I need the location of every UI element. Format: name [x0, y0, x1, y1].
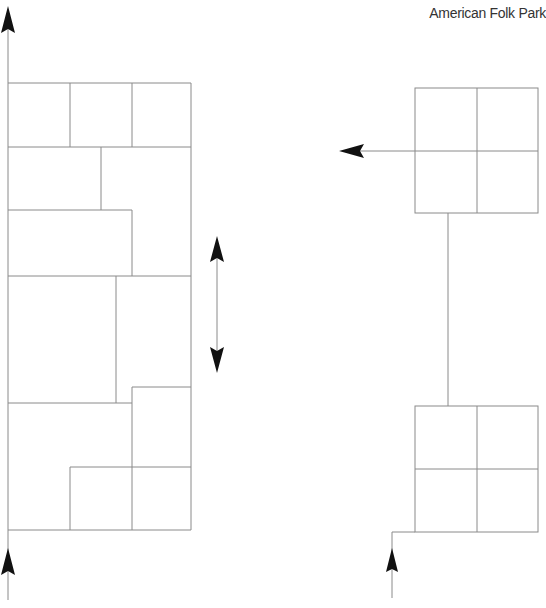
- arrowheads: [1, 6, 398, 575]
- arrow-up-icon: [386, 548, 398, 572]
- arrow-up-icon: [1, 6, 15, 33]
- left-block-lines: [8, 20, 191, 600]
- folk-park-diagram: [0, 0, 546, 608]
- right-block-lines: [360, 88, 538, 598]
- arrow-up-icon: [1, 548, 15, 575]
